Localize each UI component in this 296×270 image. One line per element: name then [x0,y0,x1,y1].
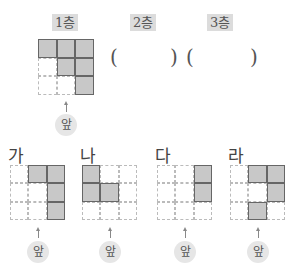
empty-cell [267,202,285,220]
answer-blank-close: ) [250,45,258,69]
empty-cell [175,183,193,201]
empty-cell [119,202,137,220]
empty-cell [230,202,248,220]
filled-cell [57,39,76,58]
empty-cell [157,165,175,183]
top-view-grid [38,39,94,95]
empty-cell [119,165,137,183]
empty-cell [82,202,100,220]
front-label: 앞 [174,241,196,263]
empty-cell [100,165,118,183]
empty-cell [10,165,28,183]
filled-cell [194,183,212,201]
front-label: 앞 [55,114,77,136]
empty-cell [175,165,193,183]
empty-cell [38,76,57,95]
option-label-1: 가 [8,142,24,167]
front-arrow-icon [38,230,39,238]
filled-cell [75,39,94,58]
answer-blank-close: ) [170,45,178,69]
front-label: 앞 [27,241,49,263]
empty-cell [119,183,137,201]
empty-cell [157,202,175,220]
filled-cell [82,165,100,183]
filled-cell [47,202,65,220]
option-grid-4 [230,165,285,220]
empty-cell [28,202,46,220]
front-arrow-icon [66,104,67,112]
empty-cell [157,183,175,201]
filled-cell [248,202,266,220]
empty-cell [175,202,193,220]
empty-cell [57,76,76,95]
empty-cell [194,202,212,220]
filled-cell [75,58,94,77]
floor-label-2: 2층 [130,14,156,31]
filled-cell [100,183,118,201]
empty-cell [38,58,57,77]
filled-cell [194,165,212,183]
filled-cell [28,165,46,183]
filled-cell [82,183,100,201]
empty-cell [230,165,248,183]
option-label-4: 라 [228,142,244,167]
front-label: 앞 [247,241,269,263]
option-grid-1 [10,165,65,220]
empty-cell [10,202,28,220]
filled-cell [38,39,57,58]
answer-blank-open: ( [186,45,194,69]
filled-cell [267,165,285,183]
front-arrow-icon [110,230,111,238]
answer-blank-open: ( [110,45,118,69]
filled-cell [47,165,65,183]
front-label: 앞 [99,241,121,263]
empty-cell [100,202,118,220]
empty-cell [230,183,248,201]
filled-cell [248,165,266,183]
floor-label-1: 1층 [52,14,78,31]
empty-cell [28,183,46,201]
filled-cell [47,183,65,201]
filled-cell [57,58,76,77]
filled-cell [75,76,94,95]
option-label-3: 다 [155,142,171,167]
option-grid-2 [82,165,137,220]
empty-cell [248,183,266,201]
filled-cell [267,183,285,201]
option-grid-3 [157,165,212,220]
option-label-2: 나 [80,142,96,167]
floor-label-3: 3층 [207,14,233,31]
front-arrow-icon [185,230,186,238]
front-arrow-icon [258,230,259,238]
empty-cell [10,183,28,201]
